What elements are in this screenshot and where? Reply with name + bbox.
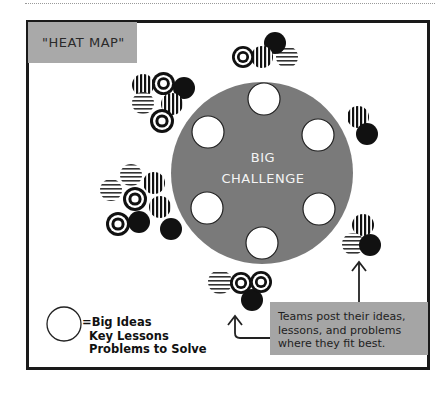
legend-open-circle-icon xyxy=(47,307,81,341)
cluster-lower-right xyxy=(342,214,381,256)
legend: =Big Ideas Key Lessons Problems to Solve xyxy=(82,316,207,357)
callout-line2: lessons, and problems xyxy=(278,324,420,338)
cluster-right xyxy=(347,106,378,145)
slot-lower-right xyxy=(303,193,335,225)
big-challenge-line1: BIG xyxy=(218,147,308,168)
legend-big-ideas: =Big Ideas xyxy=(82,316,207,330)
slot-lower-left xyxy=(191,192,223,224)
legend-key-lessons: Key Lessons xyxy=(82,330,207,344)
callout-line1: Teams post their ideas, xyxy=(278,310,420,324)
arrow-to-lower-right-cluster xyxy=(352,262,366,302)
legend-problems-to-solve: Problems to Solve xyxy=(82,343,207,357)
callout-box: Teams post their ideas, lessons, and pro… xyxy=(270,302,428,355)
slot-bottom xyxy=(246,227,278,259)
slot-upper-left xyxy=(192,116,224,148)
slot-top xyxy=(248,83,280,115)
big-challenge-label: BIG CHALLENGE xyxy=(218,147,308,189)
arrow-to-bottom-cluster xyxy=(228,316,270,338)
big-challenge-line2: CHALLENGE xyxy=(218,168,308,189)
cluster-left xyxy=(100,164,182,240)
cluster-bottom xyxy=(208,270,272,311)
cluster-top xyxy=(232,32,298,68)
callout-line3: where they fit best. xyxy=(278,337,420,351)
